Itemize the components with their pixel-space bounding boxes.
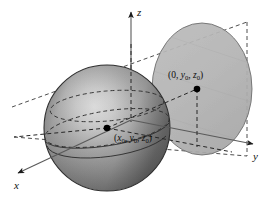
y-axis-label: y bbox=[252, 150, 258, 162]
figure-container: z x bbox=[0, 0, 274, 199]
geometry-figure: z x bbox=[0, 0, 274, 199]
center-close-paren: ) bbox=[149, 133, 152, 144]
sphere-center-dot bbox=[104, 125, 111, 132]
x-axis-label: x bbox=[13, 179, 19, 191]
z-axis-label: z bbox=[136, 6, 142, 18]
tangency-point-dot bbox=[194, 86, 201, 93]
tangency-close-paren: ) bbox=[200, 70, 203, 81]
